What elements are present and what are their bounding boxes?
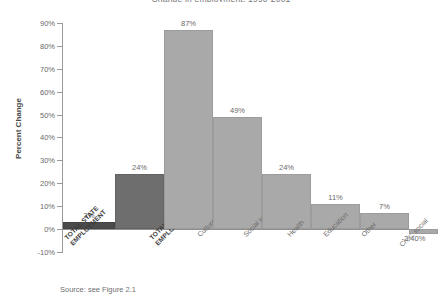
y-axis-tick — [57, 160, 62, 161]
y-axis-tick — [57, 252, 62, 253]
bar-value-label: 49% — [201, 107, 274, 115]
y-axis-tick — [57, 92, 62, 93]
y-axis-tick-label: -10% — [12, 252, 55, 253]
bar — [213, 117, 262, 229]
bar-value-label: 7% — [348, 203, 421, 211]
bar — [262, 174, 311, 229]
y-axis-tick-label: 30% — [12, 160, 55, 161]
y-axis-tick — [57, 46, 62, 47]
y-axis-tick-label: 40% — [12, 137, 55, 138]
y-axis-tick-label: 70% — [12, 69, 55, 70]
y-axis-tick-label: 80% — [12, 46, 55, 47]
y-axis-tick — [57, 206, 62, 207]
y-axis-title: Percent Change — [14, 74, 23, 184]
source-note: Source: see Figure 2.1 — [60, 285, 136, 294]
y-axis-tick — [57, 23, 62, 24]
bar — [115, 174, 164, 229]
y-axis-tick-label: 20% — [12, 183, 55, 184]
bar-value-label: 87% — [152, 20, 225, 28]
y-axis-tick-label: 90% — [12, 23, 55, 24]
y-axis-tick-label: 10% — [12, 206, 55, 207]
plot-area: Percent Change 90%80%70%60%50%40%30%20%1… — [0, 0, 442, 307]
y-axis-tick-label: 0% — [12, 229, 55, 230]
y-axis-tick-label: 60% — [12, 92, 55, 93]
bar — [164, 30, 213, 229]
y-axis-tick — [57, 183, 62, 184]
bar-value-label: 11% — [299, 194, 372, 202]
y-axis-tick-label: 50% — [12, 115, 55, 116]
y-axis-tick — [57, 115, 62, 116]
y-axis-tick — [57, 69, 62, 70]
y-axis-tick — [57, 137, 62, 138]
bar-value-label: 24% — [250, 164, 323, 172]
employment-change-bar-chart: Change in employment, 1990-2001 Percent … — [0, 0, 442, 307]
